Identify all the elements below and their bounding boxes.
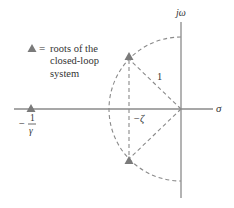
- legend-equals: =: [39, 42, 45, 54]
- sigma-axis-label: σ: [216, 102, 222, 114]
- jomega-axis-label: jω: [174, 7, 186, 18]
- radius-line-upper: [130, 60, 181, 109]
- neg-zeta-label: −ζ: [133, 113, 145, 125]
- neg-sign-label: −: [19, 118, 25, 129]
- legend-line-3: system: [50, 68, 79, 79]
- legend-line-2: closed-loop: [50, 55, 99, 66]
- radius-label: 1: [157, 71, 162, 82]
- legend-triangle-icon: [28, 44, 37, 52]
- legend-line-1: roots of the: [50, 43, 98, 54]
- one-over-gamma-numerator: 1: [30, 113, 35, 123]
- one-over-gamma-denominator: γ: [29, 126, 33, 136]
- root-marker-lower: [125, 156, 134, 164]
- root-locus-diagram: = roots of the closed-loop system jω σ 1…: [0, 0, 234, 208]
- root-marker-upper: [125, 52, 134, 60]
- root-marker-real: [27, 104, 36, 112]
